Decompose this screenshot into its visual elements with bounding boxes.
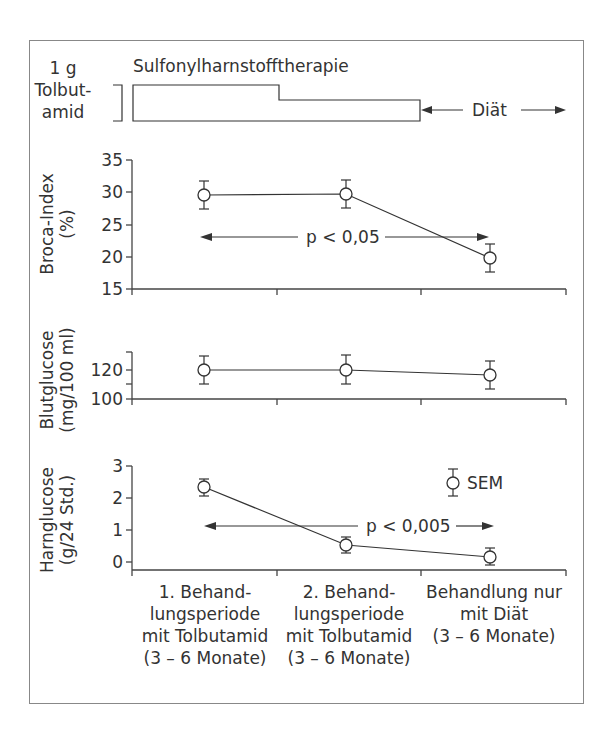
broca-y-label-line-1: Broca-Index [37,173,57,274]
blut-tick-100: 100 [91,389,123,409]
harn-y-label-line-2: (g/24 Std.) [57,475,77,565]
category-2-line-3: mit Tolbutamid [286,626,413,646]
broca-point-2 [340,188,352,200]
category-1-line-3: mit Tolbutamid [142,626,269,646]
blut-point-1 [198,364,210,376]
blut-y-label-line-2: (mg/100 ml) [57,327,77,432]
category-2-line-1: 2. Behand- [303,582,396,602]
broca-tick-20: 20 [101,247,123,267]
harn-tick-1: 1 [112,520,123,540]
blut-tick-120: 120 [91,360,123,380]
blut-y-label-line-1: Blutglucose [37,330,57,429]
blut-point-3 [484,369,496,381]
broca-tick-25: 25 [101,215,123,235]
category-1-line-4: (3 – 6 Monate) [144,648,267,668]
category-1-line-2: lungsperiode [150,604,261,624]
category-2-line-4: (3 – 6 Monate) [288,648,411,668]
broca-point-1 [198,189,210,201]
harn-point-2 [340,539,352,551]
harn-tick-0: 0 [112,552,123,572]
dose-label-line-3: amid [42,102,85,122]
broca-tick-15: 15 [101,279,123,299]
harn-tick-3: 3 [112,456,123,476]
harn-y-label-line-1: Harnglucose [37,467,57,573]
broca-point-3 [484,252,496,264]
broca-p-value: p < 0,05 [306,227,380,247]
broca-tick-35: 35 [101,150,123,170]
category-3-line-1: Behandlung nur [426,582,562,602]
harn-point-1 [198,481,210,493]
dose-label-line-1: 1 g [49,58,76,78]
figure: 1 g Tolbut- amid Sulfonylharnstofftherap… [0,0,604,734]
harn-p-value: p < 0,005 [366,516,451,536]
sem-legend-label: SEM [467,473,503,493]
diet-label: Diät [472,100,507,120]
dose-label-line-2: Tolbut- [34,80,92,100]
sem-legend-marker [447,477,459,489]
therapy-label: Sulfonylharnstofftherapie [133,56,349,76]
category-3-line-2: mit Diät [460,604,529,624]
category-2-line-2: lungsperiode [294,604,405,624]
category-3-line-3: (3 – 6 Monate) [433,626,556,646]
harn-point-3 [484,551,496,563]
broca-y-label-line-2: (%) [57,209,77,238]
category-1-line-1: 1. Behand- [159,582,252,602]
harn-tick-2: 2 [112,488,123,508]
blut-point-2 [340,364,352,376]
broca-tick-30: 30 [101,182,123,202]
